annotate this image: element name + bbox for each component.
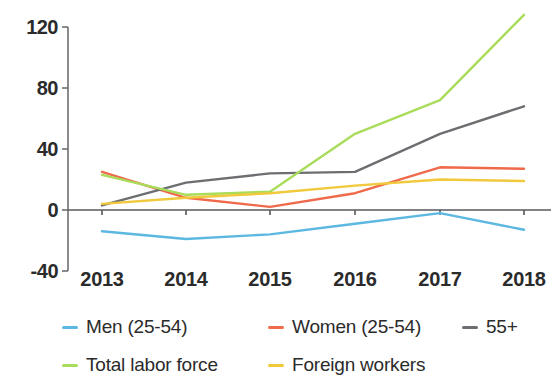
x-tick-label: 2017	[418, 268, 461, 291]
legend-item-men[interactable]: Men (25-54)	[62, 316, 187, 338]
legend-label: Women (25-54)	[292, 316, 421, 338]
legend-swatch-icon	[268, 364, 284, 367]
x-tick-label: 2018	[502, 268, 545, 291]
chart-legend: Men (25-54) Women (25-54) 55+ Total labo…	[0, 306, 551, 381]
legend-label: Foreign workers	[292, 354, 425, 376]
legend-label: Total labor force	[86, 354, 218, 376]
legend-label: Men (25-54)	[86, 316, 187, 338]
x-tick-label: 2015	[248, 268, 291, 291]
zero-baseline	[68, 210, 551, 215]
legend-swatch-icon	[62, 364, 78, 367]
series-group	[102, 15, 524, 239]
legend-item-total-labor-force[interactable]: Total labor force	[62, 354, 218, 376]
plot-area: 120 80 40 0 -40 2013 2014 2015 2016 2017…	[0, 0, 551, 300]
legend-item-foreign-workers[interactable]: Foreign workers	[268, 354, 425, 376]
legend-label: 55+	[486, 316, 518, 338]
line-chart: 120 80 40 0 -40 2013 2014 2015 2016 2017…	[0, 0, 551, 381]
y-axis	[62, 27, 68, 271]
x-tick-label: 2016	[333, 268, 376, 291]
x-tick-label: 2013	[80, 268, 123, 291]
legend-item-women[interactable]: Women (25-54)	[268, 316, 421, 338]
legend-item-55plus[interactable]: 55+	[462, 316, 518, 338]
x-tick-label: 2014	[164, 268, 207, 291]
legend-swatch-icon	[268, 326, 284, 329]
chart-canvas	[0, 0, 551, 300]
series-line-men-25-54	[102, 213, 524, 239]
legend-swatch-icon	[62, 326, 78, 329]
legend-swatch-icon	[462, 326, 478, 329]
